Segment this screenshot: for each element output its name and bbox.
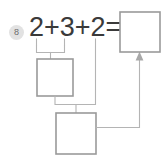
diagram-connectors-layer [0, 0, 167, 165]
third-operand-to-total-wire [76, 46, 96, 105]
answer-box[interactable] [120, 12, 160, 52]
arrow-up-icon [136, 52, 144, 61]
partial-sum-to-total-wire [55, 96, 76, 113]
partial-sum-box[interactable] [37, 59, 73, 96]
total-box[interactable] [56, 113, 96, 154]
worksheet-problem-diagram: 8 2+3+2= [0, 0, 167, 165]
total-to-answer-wire [96, 59, 140, 128]
group-bracket-icon [37, 46, 65, 53]
